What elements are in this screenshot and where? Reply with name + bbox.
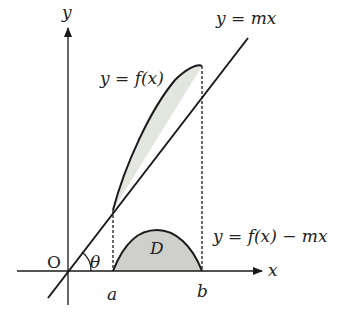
difference-label: y = f(x) − mx: [213, 228, 328, 245]
y-axis-label: y: [62, 4, 72, 21]
x-axis-label: x: [268, 262, 278, 279]
diagram: y x O θ a b D y = mx y = f(x) y = f(x) −…: [0, 0, 364, 316]
origin-label: O: [47, 254, 61, 271]
angle-label: θ: [90, 254, 100, 271]
a-label: a: [107, 286, 117, 303]
curve-f-label: y = f(x): [100, 70, 164, 87]
b-label: b: [197, 283, 208, 300]
line-mx-label: y = mx: [216, 10, 276, 27]
region-D-label: D: [150, 240, 164, 257]
